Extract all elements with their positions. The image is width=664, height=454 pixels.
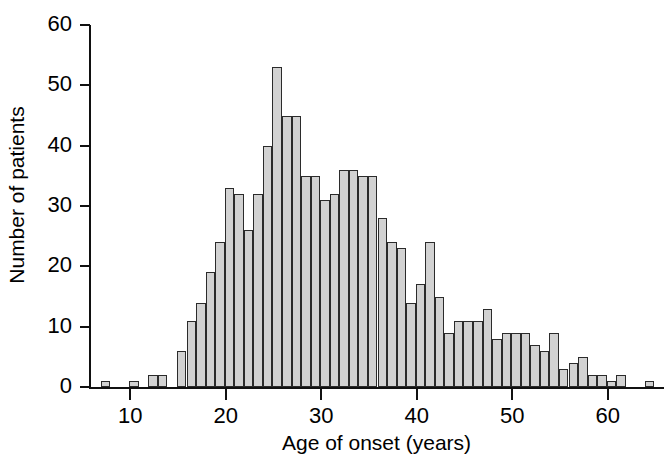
histogram-bar (387, 242, 397, 387)
x-tick-mark-40 (416, 389, 418, 400)
histogram-bar (225, 188, 235, 387)
histogram-bar (148, 375, 158, 387)
x-tick-mark-50 (511, 389, 513, 400)
y-tick-label-30: 30 (32, 194, 72, 216)
histogram-bar (607, 381, 617, 387)
histogram-bar (492, 339, 502, 387)
x-tick-label-10: 10 (105, 404, 155, 428)
x-tick-label-40: 40 (392, 404, 442, 428)
histogram-bar (511, 333, 521, 387)
y-tick-label-20: 20 (32, 254, 72, 276)
histogram-bar (263, 146, 273, 387)
histogram-bar (101, 381, 111, 387)
x-tick-mark-30 (320, 389, 322, 400)
x-tick-mark-10 (129, 389, 131, 400)
histogram-bar (339, 170, 349, 387)
histogram-bar (530, 345, 540, 387)
y-tick-label-10: 10 (32, 315, 72, 337)
y-tick-mark-60 (80, 24, 90, 26)
histogram-bar (549, 333, 559, 387)
histogram-bar (559, 369, 569, 387)
y-tick-mark-0 (80, 386, 90, 388)
histogram-bar (187, 321, 197, 387)
plot-area (91, 25, 664, 387)
histogram-bar (406, 303, 416, 387)
histogram-bar (158, 375, 168, 387)
y-tick-label-40: 40 (32, 134, 72, 156)
histogram-bar (569, 363, 579, 387)
histogram-bar (502, 333, 512, 387)
histogram-bar (616, 375, 626, 387)
histogram-bar (349, 170, 359, 387)
histogram-bar (521, 333, 531, 387)
histogram-bar (397, 248, 407, 387)
histogram-bar (253, 194, 263, 387)
histogram-bar (177, 351, 187, 387)
histogram-bar (645, 381, 655, 387)
histogram-bar (368, 176, 378, 387)
y-tick-label-50: 50 (32, 73, 72, 95)
histogram-bar (444, 333, 454, 387)
histogram-bar (416, 284, 426, 387)
histogram-bar (244, 230, 254, 387)
y-tick-label-60: 60 (32, 13, 72, 35)
histogram-bar (196, 303, 206, 387)
histogram-bar (215, 242, 225, 387)
histogram-bar (540, 351, 550, 387)
y-axis-title: Number of patients (0, 0, 34, 390)
y-tick-label-0: 0 (32, 375, 72, 397)
histogram-bar (358, 176, 368, 387)
histogram-bar (129, 381, 139, 387)
histogram-bar (425, 242, 435, 387)
x-tick-label-60: 60 (583, 404, 633, 428)
x-tick-label-50: 50 (487, 404, 537, 428)
histogram-bar (473, 321, 483, 387)
histogram-bar (588, 375, 598, 387)
y-tick-mark-30 (80, 205, 90, 207)
x-axis-line (89, 387, 664, 389)
histogram-bar (234, 194, 244, 387)
histogram-bar (292, 116, 302, 388)
histogram-bar (311, 176, 321, 387)
histogram-bar (483, 309, 493, 387)
histogram-bar (463, 321, 473, 387)
y-tick-mark-50 (80, 84, 90, 86)
x-tick-mark-20 (225, 389, 227, 400)
x-tick-label-20: 20 (201, 404, 251, 428)
histogram-bar (378, 218, 388, 387)
histogram-bar (272, 67, 282, 387)
y-tick-mark-20 (80, 265, 90, 267)
y-axis-tick-labels: 6050403020100 (30, 0, 72, 451)
y-tick-mark-40 (80, 145, 90, 147)
x-tick-label-30: 30 (296, 404, 346, 428)
y-tick-mark-10 (80, 326, 90, 328)
histogram-bar (206, 272, 216, 387)
histogram-bar (282, 116, 292, 388)
histogram-bar (454, 321, 464, 387)
histogram-bar (597, 375, 607, 387)
x-tick-mark-60 (607, 389, 609, 400)
histogram-bar (578, 357, 588, 387)
histogram-bar (330, 194, 340, 387)
histogram-bar (301, 176, 311, 387)
x-axis-title: Age of onset (years) (89, 432, 664, 454)
histogram-bar (435, 297, 445, 388)
histogram-bar (320, 200, 330, 387)
